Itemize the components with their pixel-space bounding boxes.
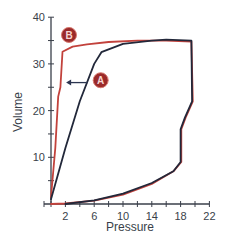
x-tick-label: 6 bbox=[91, 210, 97, 222]
annotations-layer: AB bbox=[62, 27, 109, 87]
x-axis-title: Pressure bbox=[106, 220, 154, 234]
series-a-line bbox=[51, 40, 192, 204]
y-axis-title: Volume bbox=[11, 92, 25, 132]
series-b-line bbox=[51, 41, 193, 204]
series-layer bbox=[51, 40, 193, 204]
x-tick-label: 22 bbox=[203, 210, 215, 222]
arrow-head-icon bbox=[66, 80, 71, 86]
badge-b-label: B bbox=[65, 30, 72, 41]
pressure-volume-chart: 102030402610141822 AB Pressure Volume bbox=[0, 0, 229, 246]
y-tick-label: 20 bbox=[33, 105, 45, 117]
y-tick-label: 10 bbox=[33, 151, 45, 163]
y-tick-label: 30 bbox=[33, 58, 45, 70]
x-tick-label: 2 bbox=[62, 210, 68, 222]
y-tick-label: 40 bbox=[33, 11, 45, 23]
x-tick-label: 18 bbox=[174, 210, 186, 222]
badge-a-label: A bbox=[97, 75, 104, 86]
